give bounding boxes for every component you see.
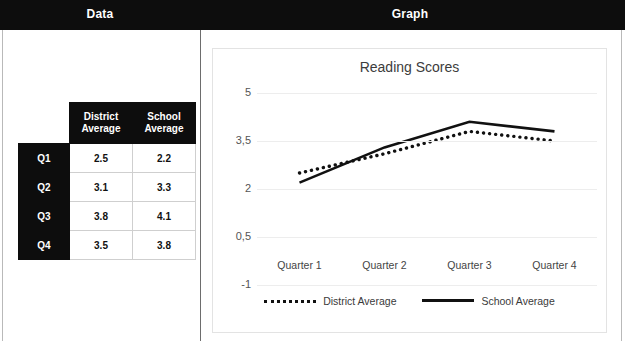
header-banner: Data Graph [0, 0, 625, 30]
solid-line-icon [422, 296, 474, 306]
cell-q1-district: 2.5 [70, 144, 133, 173]
chart-series-line [300, 122, 555, 183]
cell-q4-district: 3.5 [70, 231, 133, 260]
table-header-row: District Average School Average [19, 103, 196, 144]
y-axis-tick-label: -1 [213, 278, 251, 290]
y-axis-tick-label: 5 [213, 86, 251, 98]
chart-gridline [257, 141, 597, 142]
scores-table: District Average School Average Q1 2.5 2… [18, 102, 196, 260]
cell-q1-school: 2.2 [133, 144, 196, 173]
legend-label-school: School Average [481, 295, 554, 307]
frame-left-edge [2, 30, 3, 341]
table-row: Q3 3.8 4.1 [19, 202, 196, 231]
legend-item-school: School Average [422, 294, 554, 307]
header-label-graph: Graph [350, 7, 470, 21]
chart-gridline [257, 237, 597, 238]
chart-series-svg [213, 49, 606, 332]
row-header-q2: Q2 [19, 173, 70, 202]
chart-gridline [257, 285, 597, 286]
cell-q2-school: 3.3 [133, 173, 196, 202]
y-axis-tick-label: 0,5 [213, 230, 251, 242]
frame-right-edge [621, 30, 622, 341]
column-header-district: District Average [70, 103, 133, 144]
legend-item-district: District Average [264, 294, 396, 307]
dotted-line-icon [264, 296, 316, 306]
table-row: Q4 3.5 3.8 [19, 231, 196, 260]
cell-q3-school: 4.1 [133, 202, 196, 231]
chart-plot-area: 53,520,5-1Quarter 1Quarter 2Quarter 3Qua… [213, 49, 606, 332]
chart-legend: District Average School Average [213, 294, 606, 307]
cell-q3-district: 3.8 [70, 202, 133, 231]
y-axis-tick-label: 3,5 [213, 134, 251, 146]
data-table-container: District Average School Average Q1 2.5 2… [18, 102, 196, 260]
x-axis-tick-label: Quarter 3 [430, 259, 510, 271]
cell-q2-district: 3.1 [70, 173, 133, 202]
column-header-school: School Average [133, 103, 196, 144]
chart-gridline [257, 93, 597, 94]
table-corner-cell [19, 103, 70, 144]
legend-label-district: District Average [323, 295, 396, 307]
x-axis-tick-label: Quarter 4 [515, 259, 595, 271]
table-row: Q1 2.5 2.2 [19, 144, 196, 173]
x-axis-tick-label: Quarter 1 [260, 259, 340, 271]
column-divider [200, 30, 201, 341]
row-header-q3: Q3 [19, 202, 70, 231]
row-header-q1: Q1 [19, 144, 70, 173]
y-axis-tick-label: 2 [213, 182, 251, 194]
header-label-data: Data [40, 7, 160, 21]
x-axis-tick-label: Quarter 2 [345, 259, 425, 271]
chart-panel: Reading Scores 53,520,5-1Quarter 1Quarte… [212, 48, 607, 333]
chart-gridline [257, 189, 597, 190]
row-header-q4: Q4 [19, 231, 70, 260]
slide-canvas: Data Graph District Average School Avera… [0, 0, 625, 353]
table-row: Q2 3.1 3.3 [19, 173, 196, 202]
cell-q4-school: 3.8 [133, 231, 196, 260]
